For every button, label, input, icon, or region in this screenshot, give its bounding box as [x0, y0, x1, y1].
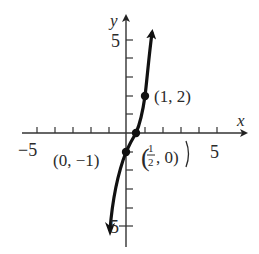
point-label-1-2: (1, 2)	[154, 87, 191, 106]
graph: x y −5 5 5 5 (1, 2) (0, −1) ( 1 2 , 0)	[0, 0, 259, 254]
svg-text:1: 1	[148, 142, 154, 154]
x-ticks	[37, 127, 217, 133]
y-tick-label-5: 5	[111, 31, 120, 51]
svg-text:, 0): , 0)	[156, 148, 179, 167]
point-label-half-0: ( 1 2 , 0)	[141, 142, 179, 172]
point-1-2	[141, 92, 149, 100]
point-half-0	[132, 129, 140, 137]
point-0-neg1	[122, 148, 130, 156]
x-tick-label-5: 5	[210, 142, 219, 162]
point-label-0-neg1: (0, −1)	[53, 151, 99, 170]
function-curve	[110, 33, 152, 230]
y-axis-label: y	[108, 11, 118, 30]
svg-text:2: 2	[148, 156, 154, 168]
x-axis-label: x	[236, 111, 245, 130]
x-tick-label-neg5: −5	[18, 140, 37, 160]
y-tick-label-neg5: 5	[110, 217, 119, 237]
